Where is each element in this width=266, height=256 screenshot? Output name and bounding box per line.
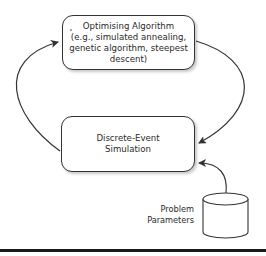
edge-optimiser-to-simulation bbox=[196, 41, 244, 143]
optimiser-line-3: descent) bbox=[69, 54, 188, 65]
database-cylinder-icon bbox=[203, 193, 248, 238]
problem-parameters-label: Problem Parameters bbox=[147, 204, 194, 226]
edge-simulation-to-optimiser bbox=[16, 42, 60, 151]
optimiser-line-2: genetic algorithm, steepest bbox=[69, 43, 188, 54]
optimiser-title: Optimising Algorithm bbox=[69, 21, 188, 32]
edge-params-to-simulation bbox=[199, 163, 226, 193]
stray-dot bbox=[70, 29, 72, 31]
discrete-event-simulation-node: Discrete-Event Simulation bbox=[61, 116, 195, 172]
bottom-divider bbox=[0, 249, 266, 252]
simulation-line-2: Simulation bbox=[96, 144, 159, 155]
optimising-algorithm-node: Optimising Algorithm (e.g., simulated an… bbox=[62, 15, 195, 70]
params-line-1: Problem bbox=[147, 204, 194, 215]
params-line-2: Parameters bbox=[147, 215, 194, 226]
diagram-canvas: Optimising Algorithm (e.g., simulated an… bbox=[0, 0, 266, 256]
simulation-line-1: Discrete-Event bbox=[96, 133, 159, 144]
optimiser-line-1: (e.g., simulated annealing, bbox=[69, 32, 188, 43]
